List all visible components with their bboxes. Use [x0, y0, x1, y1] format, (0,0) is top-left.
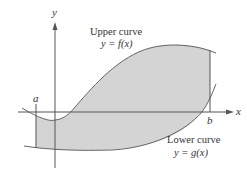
y-axis-label: y	[51, 6, 57, 18]
x-axis-label: x	[235, 105, 241, 117]
y-axis-arrow-icon	[53, 22, 58, 30]
upper-curve-equation: y = f(x)	[100, 38, 133, 50]
bound-a-label: a	[33, 92, 39, 104]
area-between-curves-diagram: y x a b Upper curve y = f(x) Lower curve…	[0, 0, 247, 174]
x-axis-arrow-icon	[226, 110, 234, 115]
bound-b-label: b	[207, 114, 213, 126]
upper-curve-title: Upper curve	[90, 26, 143, 37]
lower-curve-equation: y = g(x)	[173, 147, 208, 159]
lower-curve-title: Lower curve	[167, 134, 221, 145]
